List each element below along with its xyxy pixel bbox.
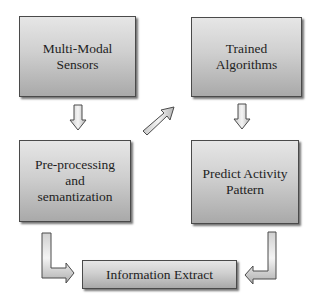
arrow-down-icon (70, 105, 86, 130)
arrow-elbow-left-icon (245, 232, 276, 284)
arrow-down-icon (234, 104, 250, 129)
arrow-diagonal-icon (143, 107, 174, 135)
arrows-layer (0, 0, 317, 307)
arrow-elbow-right-icon (42, 233, 74, 283)
